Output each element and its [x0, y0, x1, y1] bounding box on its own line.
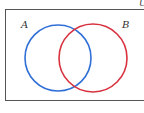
venn-diagram: U A B — [0, 0, 144, 113]
set-a-label: A — [20, 19, 28, 30]
set-a-circle — [25, 25, 91, 91]
universe-label: U — [139, 0, 144, 8]
set-b-circle — [59, 24, 127, 92]
set-b-label: B — [121, 19, 129, 30]
